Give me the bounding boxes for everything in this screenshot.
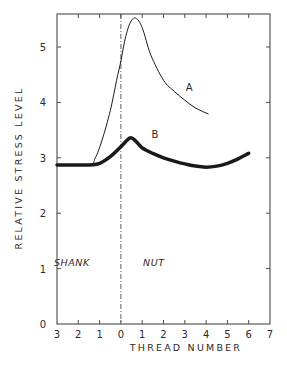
y-tick-label: 3 [40, 153, 46, 164]
plot-frame [57, 14, 270, 324]
x-tick-label: 7 [267, 329, 273, 340]
x-tick-label: 2 [75, 329, 81, 340]
x-tick-label: 2 [160, 329, 166, 340]
curve-label-a: A [186, 82, 193, 93]
x-tick-label: 1 [96, 329, 102, 340]
x-tick-label: 0 [118, 329, 124, 340]
x-tick-label: 5 [224, 329, 230, 340]
y-tick-label: 5 [40, 42, 46, 53]
y-tick-label: 1 [40, 264, 46, 275]
curves [57, 18, 249, 167]
x-tick-label: 4 [203, 329, 209, 340]
curve-b [57, 138, 249, 168]
x-tick-label: 3 [54, 329, 60, 340]
y-axis-title: RELATIVE STRESS LEVEL [13, 87, 24, 250]
labels: ABSHANKNUT [54, 82, 193, 268]
y-tick-label: 2 [40, 208, 46, 219]
y-tick-label: 4 [40, 97, 46, 108]
x-axis-title: THREAD NUMBER [129, 342, 242, 353]
stress-chart: 32101234567012345 ABSHANKNUT THREAD NUMB… [0, 0, 287, 367]
y-tick-label: 0 [40, 319, 46, 330]
region-label-nut: NUT [143, 257, 165, 268]
x-tick-label: 1 [139, 329, 145, 340]
region-label-shank: SHANK [54, 257, 90, 268]
x-tick-label: 6 [246, 329, 252, 340]
axis-ticks: 32101234567012345 [40, 14, 273, 340]
plot-border [57, 14, 270, 324]
x-tick-label: 3 [182, 329, 188, 340]
curve-label-b: B [152, 129, 159, 140]
